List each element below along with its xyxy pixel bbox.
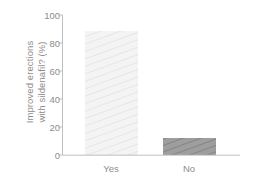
x-tick-label-no: No xyxy=(183,163,195,174)
x-tick-label-yes: Yes xyxy=(103,163,119,174)
plot-area xyxy=(0,0,259,182)
bar-yes xyxy=(85,31,138,155)
bar-chart: Improved erections with sildenafil? (%) … xyxy=(0,0,259,182)
bar-no xyxy=(163,138,216,155)
